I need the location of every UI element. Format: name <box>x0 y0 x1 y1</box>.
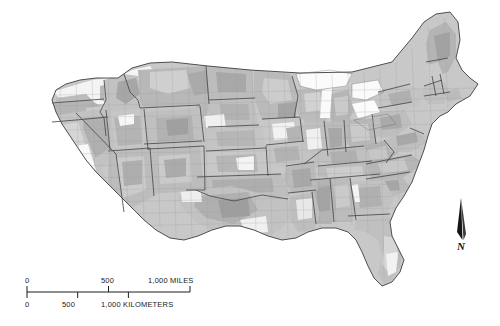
scale-miles-zero-label: 0 <box>25 276 29 285</box>
scale-bar-graphic <box>27 286 190 298</box>
scale-miles-end-label: 1,000 MILES <box>148 276 194 285</box>
map-figure: 0 500 1,000 MILES 0 500 1,000 KILOMETERS… <box>0 0 500 326</box>
scale-km-mid-label: 500 <box>62 300 75 309</box>
north-arrow-label: N <box>457 240 465 252</box>
north-arrow-graphic <box>457 198 466 240</box>
scale-km-end-label: 1,000 KILOMETERS <box>101 300 173 309</box>
scale-km-zero-label: 0 <box>25 300 29 309</box>
us-choropleth-map[interactable] <box>0 0 500 326</box>
scale-miles-mid-label: 500 <box>101 276 114 285</box>
